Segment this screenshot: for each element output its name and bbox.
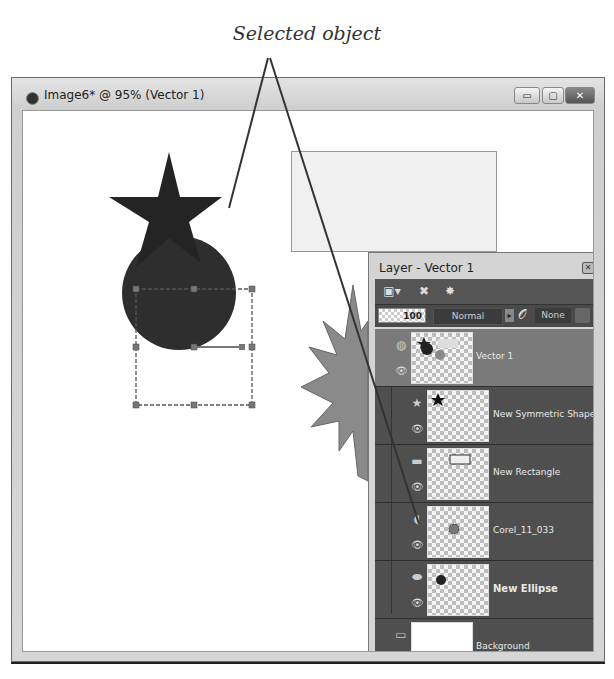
layer-properties-icon[interactable]: ✸ [441, 283, 459, 299]
layer-controls: 100 Normal ▸ 𝒪 None [375, 305, 594, 327]
layer-thumbnail [427, 564, 489, 616]
maximize-icon: ▢ [543, 88, 563, 103]
minimize-icon: ▭ [515, 88, 539, 103]
layers-palette: Layer - Vector 1 ✕ ▣▾ ✖ ✸ 100 Normal ▸ 𝒪… [368, 252, 594, 652]
blend-mode-select[interactable]: Normal [433, 308, 503, 325]
layer-name: Vector 1 [476, 351, 513, 361]
visibility-eye-icon[interactable]: 👁 [395, 367, 407, 375]
visibility-eye-icon[interactable]: 👁 [411, 599, 423, 607]
link-icon[interactable]: 𝒪 [518, 307, 526, 323]
circle-object[interactable] [122, 236, 236, 350]
layers-list: ◍ 👁 Vector 1 ★ 👁 New Symmetric Shape [375, 329, 594, 652]
layer-name: Corel_11_033 [493, 525, 554, 535]
layer-row-vector-1[interactable]: ◍ 👁 Vector 1 [375, 329, 594, 387]
layer-name: Background [476, 641, 530, 651]
minimize-button[interactable]: ▭ [514, 87, 540, 104]
blend-arrow-icon[interactable]: ▸ [505, 309, 514, 322]
image-canvas[interactable]: Layer - Vector 1 ✕ ▣▾ ✖ ✸ 100 Normal ▸ 𝒪… [22, 110, 594, 652]
callout-label: Selected object [0, 22, 614, 44]
ellipse-shape-icon: ⬬ [411, 571, 423, 583]
layer-row-new-ellipse[interactable]: ⬬ 👁 New Ellipse [375, 561, 594, 619]
layer-thumbnail [427, 506, 489, 558]
layer-thumbnail [427, 390, 489, 442]
mask-icon[interactable] [575, 308, 590, 323]
delete-layer-icon[interactable]: ✖ [415, 283, 433, 299]
mask-select[interactable]: None [535, 308, 571, 323]
panel-close-button[interactable]: ✕ [582, 262, 594, 274]
starburst-object[interactable] [301, 285, 368, 481]
title-bar[interactable]: Image6* @ 95% (Vector 1) ▭ ▢ ✕ [12, 78, 604, 110]
visibility-eye-icon[interactable]: 👁 [411, 541, 423, 549]
layer-row-corel-11-033[interactable]: ◖ 👁 Corel_11_033 [375, 503, 594, 561]
app-icon [26, 92, 39, 105]
layer-row-new-symmetric-shape[interactable]: ★ 👁 New Symmetric Shape [375, 387, 594, 445]
new-layer-icon[interactable]: ▣▾ [379, 283, 405, 299]
image-window: Image6* @ 95% (Vector 1) ▭ ▢ ✕ Layer - V… [11, 77, 605, 662]
maximize-button[interactable]: ▢ [542, 87, 564, 104]
layer-thumbnail [411, 622, 473, 652]
raster-layer-icon: ▭ [395, 629, 407, 641]
rectangle-shape-icon: ▬ [411, 455, 423, 467]
close-icon: ✕ [566, 88, 594, 103]
opacity-field[interactable]: 100 [378, 308, 426, 323]
layer-name: New Symmetric Shape [493, 409, 594, 419]
visibility-eye-icon[interactable]: 👁 [411, 425, 423, 433]
close-button[interactable]: ✕ [565, 87, 595, 104]
window-title: Image6* @ 95% (Vector 1) [44, 88, 204, 102]
layer-thumbnail [427, 448, 489, 500]
panel-title: Layer - Vector 1 [379, 261, 474, 275]
layer-name: New Ellipse [493, 583, 558, 594]
visibility-eye-icon[interactable]: 👁 [411, 483, 423, 491]
layer-thumbnail [411, 332, 473, 384]
vector-layer-icon: ◍ [395, 339, 407, 351]
layer-row-new-rectangle[interactable]: ▬ 👁 New Rectangle [375, 445, 594, 503]
layer-row-background[interactable]: ▭ 👁 Background [375, 619, 594, 652]
layer-name: New Rectangle [493, 467, 560, 477]
layers-toolbar: ▣▾ ✖ ✸ [375, 279, 594, 305]
preset-shape-icon: ◖ [411, 513, 423, 525]
star-shape-icon: ★ [411, 397, 423, 409]
